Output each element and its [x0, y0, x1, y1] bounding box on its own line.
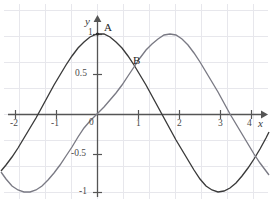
- x-tick-label-3: 3: [218, 119, 223, 129]
- point-label-b: B: [133, 55, 140, 66]
- plot-canvas: [0, 0, 270, 203]
- grid-lines: [4, 4, 268, 199]
- x-tick-label-2: 2: [177, 119, 182, 129]
- y-axis-arrow: [94, 15, 102, 22]
- math-figure: y x -2 -1 0 1 2 3 4 1 0.5 -0.5 -1 A B: [0, 0, 270, 203]
- y-tick-label-neghalf: -0.5: [71, 149, 86, 159]
- y-tick-label-1: 1: [88, 28, 93, 38]
- origin-label: 0: [89, 118, 94, 128]
- y-tick-label-half: 0.5: [75, 69, 87, 79]
- y-tick-label-neg1: -1: [79, 187, 87, 197]
- x-tick-label-neg2: -2: [10, 119, 18, 129]
- x-axis-label: x: [258, 118, 263, 129]
- x-tick-label-neg1: -1: [51, 119, 59, 129]
- y-axis-label: y: [85, 16, 90, 27]
- x-tick-label-1: 1: [136, 119, 141, 129]
- point-a-marker: [96, 32, 99, 35]
- point-label-a: A: [104, 22, 112, 33]
- x-tick-label-4: 4: [247, 119, 252, 129]
- axes: [8, 15, 268, 197]
